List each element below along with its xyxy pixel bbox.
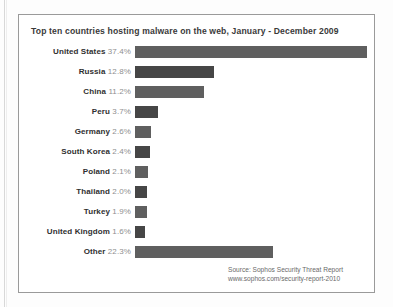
bar-track	[135, 246, 273, 258]
country-name: Peru	[92, 107, 110, 116]
chart-row: United States 37.4%	[19, 44, 374, 64]
row-label: Peru 3.7%	[92, 107, 131, 117]
chart-row: Turkey 1.9%	[19, 204, 374, 224]
percent-value: 22.3%	[105, 247, 131, 256]
bar-track	[135, 106, 158, 118]
bar	[135, 186, 147, 198]
chart-row: Thailand 2.0%	[19, 184, 374, 204]
chart-container: Top ten countries hosting malware on the…	[18, 14, 375, 293]
percent-value: 2.6%	[110, 127, 131, 136]
chart-row: South Korea 2.4%	[19, 144, 374, 164]
bar-track	[135, 186, 147, 198]
chart-row: Poland 2.1%	[19, 164, 374, 184]
bar-track	[135, 126, 151, 138]
bar-track	[135, 166, 148, 178]
country-name: Thailand	[76, 187, 110, 196]
row-label: Russia 12.8%	[79, 67, 131, 77]
bar-track	[135, 226, 145, 238]
country-name: Russia	[79, 67, 106, 76]
source-line-1: Source: Sophos Security Threat Report	[228, 265, 343, 274]
country-name: South Korea	[61, 147, 110, 156]
country-name: Germany	[75, 127, 110, 136]
country-name: Poland	[83, 167, 110, 176]
percent-value: 2.0%	[110, 187, 131, 196]
country-name: United Kingdom	[47, 227, 110, 236]
row-label: Thailand 2.0%	[76, 187, 131, 197]
chart-title: Top ten countries hosting malware on the…	[31, 26, 339, 36]
percent-value: 1.9%	[110, 207, 131, 216]
percent-value: 2.4%	[110, 147, 131, 156]
source-attribution: Source: Sophos Security Threat Report ww…	[228, 265, 343, 283]
chart-row: China 11.2%	[19, 84, 374, 104]
bar-track	[135, 86, 204, 98]
percent-value: 11.2%	[106, 87, 131, 96]
bar	[135, 146, 150, 158]
percent-value: 3.7%	[110, 107, 131, 116]
bar	[135, 106, 158, 118]
country-name: United States	[53, 47, 105, 56]
percent-value: 1.6%	[110, 227, 131, 236]
row-label: United States 37.4%	[53, 47, 131, 57]
country-name: China	[83, 87, 106, 96]
row-label: South Korea 2.4%	[61, 147, 131, 157]
bar-track	[135, 146, 150, 158]
scan-gutter-line-secondary	[6, 0, 7, 307]
country-name: Turkey	[84, 207, 110, 216]
bar	[135, 86, 204, 98]
country-name: Other	[84, 247, 106, 256]
percent-value: 37.4%	[105, 47, 131, 56]
chart-row: Germany 2.6%	[19, 124, 374, 144]
row-label: Other 22.3%	[84, 247, 131, 257]
percent-value: 2.1%	[110, 167, 131, 176]
row-label: Poland 2.1%	[83, 167, 131, 177]
bar	[135, 66, 214, 78]
chart-row: Peru 3.7%	[19, 104, 374, 124]
bar-track	[135, 66, 214, 78]
chart-row: United Kingdom 1.6%	[19, 224, 374, 244]
bar	[135, 206, 147, 218]
percent-value: 12.8%	[105, 67, 131, 76]
row-label: Germany 2.6%	[75, 127, 131, 137]
bar-track	[135, 46, 367, 58]
bar	[135, 126, 151, 138]
chart-row: Other 22.3%	[19, 244, 374, 264]
bar	[135, 226, 145, 238]
bar	[135, 166, 148, 178]
source-line-2[interactable]: www.sophos.com/security-report-2010	[228, 274, 343, 283]
scan-gutter-line	[4, 0, 5, 307]
page-background: Top ten countries hosting malware on the…	[0, 0, 393, 307]
row-label: Turkey 1.9%	[84, 207, 131, 217]
bar	[135, 46, 367, 58]
chart-row: Russia 12.8%	[19, 64, 374, 84]
row-label: China 11.2%	[83, 87, 131, 97]
bar	[135, 246, 273, 258]
bar-chart-rows: United States 37.4%Russia 12.8%China 11.…	[19, 44, 374, 264]
row-label: United Kingdom 1.6%	[47, 227, 131, 237]
bar-track	[135, 206, 147, 218]
